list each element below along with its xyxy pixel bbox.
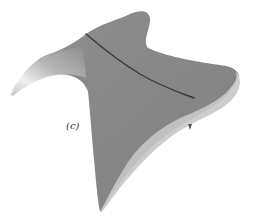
surface-render: [0, 0, 256, 218]
left-wing: [10, 46, 86, 96]
panel-label: (c): [66, 121, 79, 131]
surface-figure: (c): [0, 0, 256, 218]
surface-notch: [188, 124, 192, 130]
